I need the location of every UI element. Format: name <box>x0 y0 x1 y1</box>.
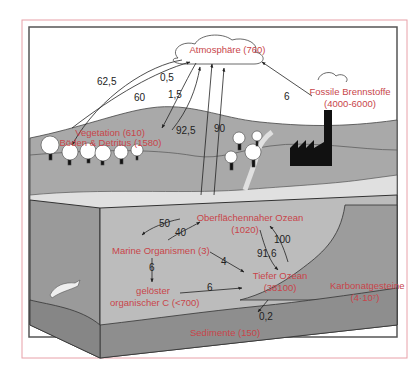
flux-deep-to-sediment: 0,2 <box>259 311 273 322</box>
deep-ocean-value: (38100) <box>253 282 307 293</box>
flux-doc-to-deep: 6 <box>207 282 213 293</box>
atmosphere-label: Atmosphäre (760) <box>185 44 270 55</box>
flux-surface-to-marine: 50 <box>159 218 170 229</box>
flux-marine-to-doc: 6 <box>149 262 155 273</box>
flux-fossil-to-atm: 6 <box>284 91 290 102</box>
flux-marine-to-deep: 4 <box>221 256 227 267</box>
flux-1-5: 1,5 <box>168 89 182 100</box>
flux-deep-to-surface: 100 <box>274 234 291 245</box>
surface-ocean-label: Oberflächennaher Ozean <box>190 212 310 223</box>
fossil-fuels-label: Fossile Brennstoffe <box>305 86 395 97</box>
flux-atm-to-veg: 60 <box>134 92 145 103</box>
carbonate-label: Karbonatgesteine <box>330 280 402 291</box>
marine-organisms-label: Marine Organismen (3) <box>112 245 207 256</box>
flux-veg-to-atm: 62,5 <box>97 76 116 87</box>
soil-label: Böden & Detritus (1580) <box>58 137 163 148</box>
deep-ocean-label: Tiefer Ozean <box>250 270 310 281</box>
carbonate-value: (4·10⁷) <box>345 292 385 303</box>
flux-surface-to-deep: 91,6 <box>257 248 276 259</box>
doc-label: gelöster <box>128 285 178 296</box>
flux-atm-to-ocean: 90 <box>214 123 225 134</box>
diagram-graphic <box>0 0 420 380</box>
flux-marine-to-surface: 40 <box>175 227 186 238</box>
doc-value: organischer C (<700) <box>110 297 198 308</box>
surface-ocean-value: (1020) <box>225 224 265 235</box>
fossil-fuels-value: (4000-6000) <box>305 98 395 109</box>
flux-ocean-to-atm: 92,5 <box>176 125 195 136</box>
flux-0-5: 0,5 <box>160 72 174 83</box>
carbon-cycle-diagram: Atmosphäre (760) Fossile Brennstoffe (40… <box>0 0 420 380</box>
sediments-label: Sedimente (150) <box>190 327 260 338</box>
